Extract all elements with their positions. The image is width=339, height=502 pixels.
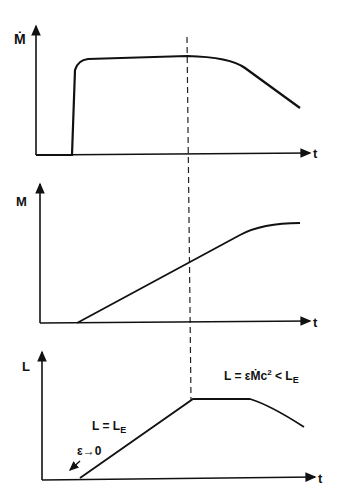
eddington-annotation: L = LE <box>92 419 126 435</box>
panel-mdot: Ṁ t <box>14 26 318 161</box>
panel-l: L t L = LE L = εṀc2 < LE ε→0 <box>22 352 323 486</box>
panel-m: M t <box>16 184 318 330</box>
t-axis-label: t <box>313 315 318 330</box>
t-axis-label: t <box>318 471 323 486</box>
efficiency-annotation: L = εṀc2 < LE <box>224 368 299 385</box>
t-axis-label: t <box>313 146 318 161</box>
dashed-divider <box>187 37 191 400</box>
m-axis-label: M <box>16 194 27 209</box>
epsilon-arrow <box>70 461 80 470</box>
epsilon-annotation: ε→0 <box>77 444 102 458</box>
chart-figure: Ṁ t M t L t L = LE L = εṀc2 < LE ε→0 <box>0 0 339 502</box>
mdot-axis-label: Ṁ <box>14 31 26 47</box>
l-axis-label: L <box>22 359 30 374</box>
